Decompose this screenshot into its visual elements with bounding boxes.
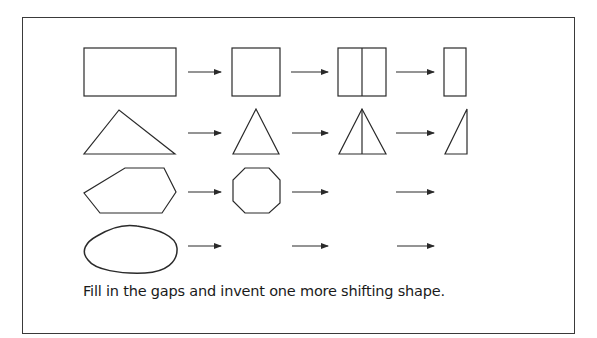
scalene-triangle-shape [84,110,175,154]
row-blob [84,225,434,273]
wide-rectangle-shape [84,48,176,96]
irregular-blob-shape [84,225,177,273]
row-triangle [84,109,467,154]
instruction-caption: Fill in the gaps and invent one more shi… [83,283,445,299]
row-rectangle [84,48,466,96]
octagon-shape [233,168,280,213]
isosceles-triangle-shape [233,109,279,154]
narrow-rectangle-shape [444,48,466,96]
right-triangle-shape [445,109,467,154]
square-shape [232,48,280,96]
row-polygon [84,168,434,213]
irregular-hexagon-shape [84,168,176,213]
